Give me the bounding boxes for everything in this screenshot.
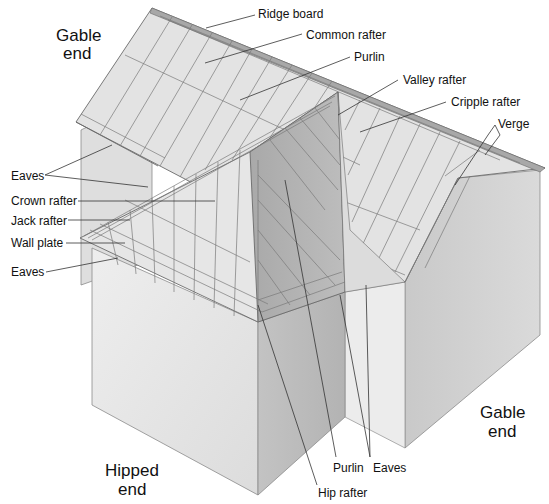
- label-common-rafter: Common rafter: [306, 28, 386, 42]
- label-verge: Verge: [498, 117, 530, 131]
- gable-end-right-label-line2: end: [488, 422, 516, 441]
- label-wall-plate: Wall plate: [11, 236, 64, 250]
- gable-end-top-label-line2: end: [63, 44, 91, 63]
- gable-end-right-label-line1: Gable: [480, 403, 525, 422]
- label-hip-rafter: Hip rafter: [318, 486, 367, 500]
- label-eaves-upper: Eaves: [11, 169, 44, 183]
- label-eaves-bottom: Eaves: [373, 461, 406, 475]
- label-crown-rafter: Crown rafter: [11, 194, 77, 208]
- label-valley-rafter: Valley rafter: [403, 73, 466, 87]
- roof-structure-diagram: Gable end Gable end Hipped end Ridge boa…: [0, 0, 549, 504]
- label-purlin-bottom: Purlin: [333, 461, 364, 475]
- inner-corner-wall: [345, 282, 405, 448]
- label-jack-rafter: Jack rafter: [11, 214, 67, 228]
- label-purlin-top: Purlin: [354, 50, 385, 64]
- label-ridge-board: Ridge board: [258, 7, 323, 21]
- label-eaves-lower: Eaves: [11, 265, 44, 279]
- label-cripple-rafter: Cripple rafter: [451, 95, 520, 109]
- gable-end-top-label-line1: Gable: [56, 26, 101, 45]
- hipped-end-label-line1: Hipped: [105, 461, 159, 480]
- wing-front-wall: [258, 292, 345, 495]
- hipped-end-label-line2: end: [118, 480, 146, 499]
